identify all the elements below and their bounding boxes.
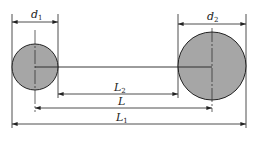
label-L1: L1 (115, 111, 128, 125)
label-d2: d2 (207, 10, 219, 24)
label-L2: L2 (113, 81, 126, 95)
label-L: L (117, 95, 125, 108)
circle-distance-diagram: d1 d2 L2 L L1 (0, 0, 256, 142)
label-d1: d1 (31, 8, 43, 22)
